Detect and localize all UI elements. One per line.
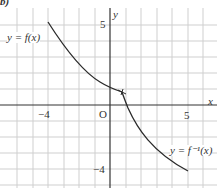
y-axis-label: y <box>113 9 118 20</box>
function-graph <box>0 0 217 188</box>
tick-label-x-5: 5 <box>184 110 190 121</box>
curve-label-f-inverse: y = f⁻¹(x) <box>170 145 212 156</box>
tick-label-y-neg4: −4 <box>93 164 105 175</box>
tick-label-y-5: 5 <box>100 19 106 30</box>
tick-label-x-neg4: −4 <box>38 109 50 120</box>
x-axis-label: x <box>208 96 213 107</box>
curve-f-inverse <box>122 92 188 171</box>
origin-label: O <box>99 109 107 120</box>
intersection-mark <box>118 89 126 95</box>
curve-label-f: y = f(x) <box>7 32 40 43</box>
part-label: b) <box>0 0 9 7</box>
